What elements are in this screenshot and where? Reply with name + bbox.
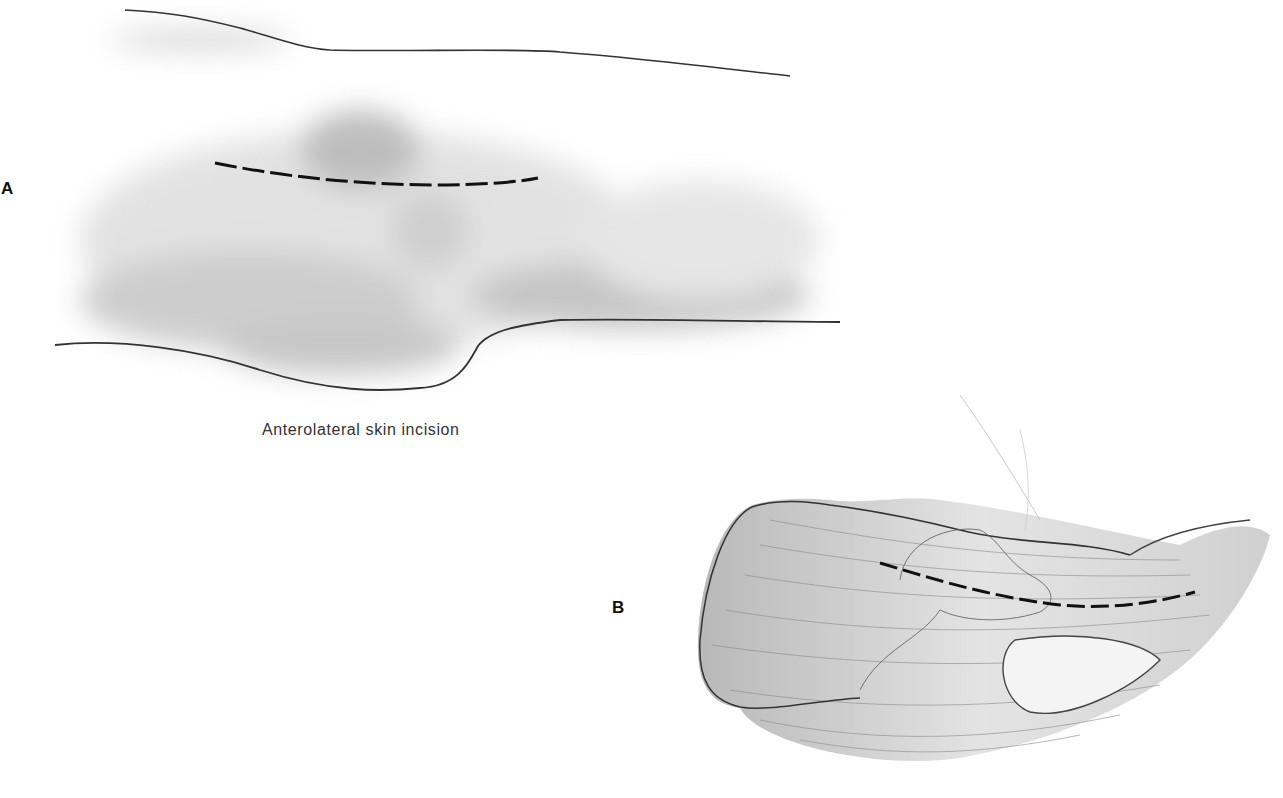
panel-b-muscle-drawing — [698, 395, 1270, 761]
panel-a-limb-drawing — [55, 10, 840, 390]
panel-label-b: B — [612, 598, 624, 618]
panel-a-caption: Anterolateral skin incision — [262, 421, 460, 439]
panel-label-a: A — [1, 179, 13, 199]
illustration-canvas — [0, 0, 1283, 798]
